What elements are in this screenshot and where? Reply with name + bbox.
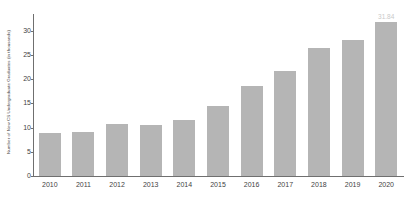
bar[interactable] [173, 120, 195, 176]
bar[interactable] [39, 133, 61, 176]
bar[interactable] [241, 86, 263, 176]
y-tick-label: 10 [0, 123, 31, 133]
bar[interactable] [207, 106, 229, 176]
bar-column[interactable] [274, 14, 296, 176]
bar-column[interactable] [207, 14, 229, 176]
y-tick-label: 5 [0, 147, 31, 157]
plot-area: 31.84 [33, 14, 403, 176]
bar-column[interactable] [308, 14, 330, 176]
bar[interactable] [308, 48, 330, 176]
bar[interactable] [274, 71, 296, 176]
x-tick-label: 2020 [366, 180, 406, 190]
bar-column[interactable] [241, 14, 263, 176]
bar-column[interactable] [342, 14, 364, 176]
bar[interactable] [375, 22, 397, 176]
bar-column[interactable]: 31.84 [375, 14, 397, 176]
y-tick-mark [31, 176, 33, 177]
bar[interactable] [140, 125, 162, 176]
bar[interactable] [342, 40, 364, 176]
bar-column[interactable] [140, 14, 162, 176]
y-tick-label: 0 [0, 171, 31, 181]
y-tick-label: 20 [0, 74, 31, 84]
bar-value-label: 31.84 [369, 13, 403, 20]
bar-chart-figure: Number of New CS Undergraduate Graduates… [0, 0, 412, 208]
bar-column[interactable] [39, 14, 61, 176]
bar-column[interactable] [173, 14, 195, 176]
bar[interactable] [106, 124, 128, 176]
bar-column[interactable] [72, 14, 94, 176]
bar[interactable] [72, 132, 94, 176]
bar-column[interactable] [106, 14, 128, 176]
x-axis-line [33, 176, 404, 177]
y-tick-label: 15 [0, 98, 31, 108]
y-tick-label: 25 [0, 50, 31, 60]
y-tick-label: 30 [0, 26, 31, 36]
